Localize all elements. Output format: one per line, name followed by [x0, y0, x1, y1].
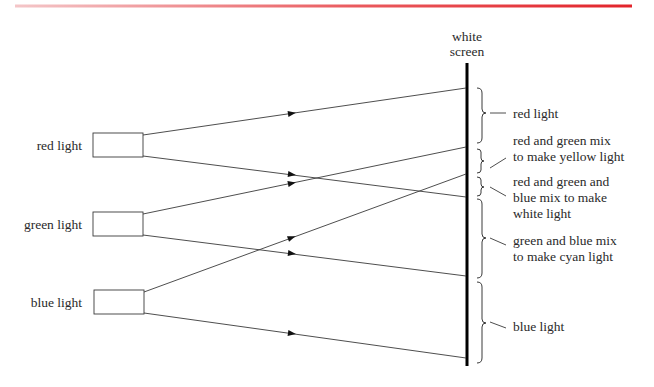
source-label-green: green light	[24, 217, 82, 232]
brace-red	[477, 88, 486, 143]
green-light-source	[93, 212, 143, 236]
arrow-icon	[287, 233, 297, 241]
leader-cyan	[490, 238, 506, 245]
screen-label-line2: screen	[450, 44, 485, 59]
arrow-icon	[288, 110, 297, 117]
green-ray-upper	[143, 147, 466, 214]
red-light-source	[93, 133, 143, 157]
green-ray-lower	[143, 235, 466, 276]
brace-blue	[477, 282, 486, 363]
region-label-yellow-line1: red and green mix	[513, 133, 611, 148]
region-label-yellow-line2: to make yellow light	[513, 149, 625, 164]
brace-yellow	[477, 149, 484, 173]
arrow-icon	[288, 250, 297, 257]
leader-white	[490, 187, 506, 196]
region-label-blue: blue light	[513, 319, 565, 334]
region-label-white-line3: white light	[513, 206, 571, 221]
source-label-red: red light	[37, 138, 83, 153]
red-ray-upper	[143, 88, 466, 135]
blue-light-source	[94, 290, 144, 314]
header-bar	[15, 5, 632, 8]
blue-ray-lower	[144, 313, 466, 358]
region-label-cyan-line1: green and blue mix	[513, 233, 617, 248]
arrow-icon	[288, 330, 297, 337]
arrow-icon	[287, 179, 296, 186]
region-label-white-line2: blue mix to make	[513, 190, 607, 205]
region-label-cyan-line2: to make cyan light	[513, 249, 613, 264]
region-label-red: red light	[513, 106, 559, 121]
screen-label-line1: white	[452, 29, 482, 44]
region-label-white-line1: red and green and	[513, 174, 610, 189]
arrow-icon	[288, 171, 297, 178]
leader-yellow	[490, 158, 506, 168]
blue-ray-upper	[144, 174, 466, 292]
leader-blue	[490, 322, 506, 328]
brace-white	[477, 177, 484, 196]
brace-cyan	[477, 199, 486, 278]
red-ray-lower	[143, 156, 466, 197]
light-mixing-diagram: white screen red light green light blue …	[0, 0, 654, 387]
source-label-blue: blue light	[31, 295, 83, 310]
